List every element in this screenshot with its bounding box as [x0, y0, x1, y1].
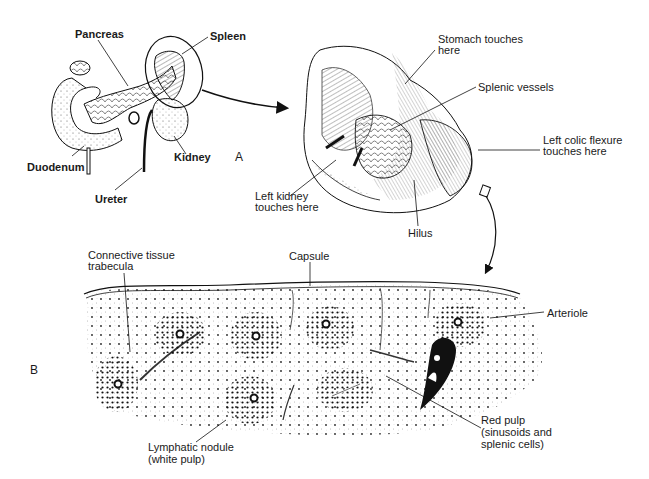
- panel-label-a: A: [235, 151, 243, 163]
- label-pancreas: Pancreas: [75, 28, 124, 40]
- label-left-colic-flexure-line2: touches here: [543, 145, 607, 157]
- label-duodenum: Duodenum: [27, 161, 84, 173]
- spleen-anatomy-illustration: [0, 0, 649, 479]
- label-left-kidney-line2: touches here: [255, 201, 319, 213]
- label-red-pulp-line3: splenic cells): [481, 438, 544, 450]
- label-arteriole: Arteriole: [547, 307, 588, 319]
- label-lymphatic-nodule-line1: Lymphatic nodule: [148, 441, 234, 453]
- label-red-pulp-line2: (sinusoids and: [481, 426, 552, 438]
- label-stomach-touches-line2: here: [438, 44, 460, 56]
- label-kidney: Kidney: [174, 151, 211, 163]
- abdominal-overview-drawing: [52, 30, 286, 190]
- spleen-histology-drawing: [84, 262, 544, 442]
- label-connective-tissue-line2: trabecula: [88, 260, 133, 272]
- label-capsule: Capsule: [289, 250, 329, 262]
- label-splenic-vessels: Splenic vessels: [478, 81, 554, 93]
- label-ureter: Ureter: [95, 193, 127, 205]
- label-spleen: Spleen: [210, 30, 246, 42]
- label-red-pulp-line1: Red pulp: [481, 414, 525, 426]
- panel-label-b: B: [30, 364, 38, 376]
- label-lymphatic-nodule-line2: (white pulp): [148, 453, 205, 465]
- label-hilus: Hilus: [408, 227, 432, 239]
